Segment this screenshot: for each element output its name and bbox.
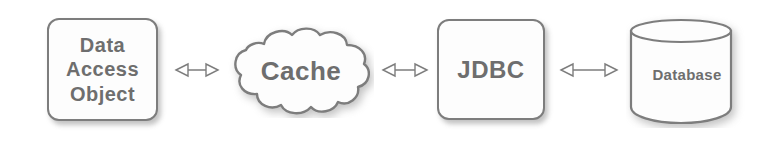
arrowhead-right (206, 64, 218, 76)
connector-dao-cache[interactable] (163, 56, 231, 84)
arrowhead-left (383, 64, 395, 76)
arrowhead-right (605, 64, 617, 76)
node-database-text-wrap: Database (626, 14, 748, 128)
diagram-canvas: Data Access Object Cache (0, 0, 783, 142)
node-database[interactable]: Database (626, 14, 748, 128)
node-cache-text-wrap: Cache (228, 24, 374, 118)
node-cache[interactable]: Cache (228, 24, 374, 118)
node-data-access-object-label: Data Access Object (66, 33, 139, 106)
node-jdbc[interactable]: JDBC (437, 19, 545, 120)
node-database-label: Database (652, 60, 721, 83)
node-jdbc-label: JDBC (457, 55, 524, 84)
connector-jdbc-database[interactable] (548, 56, 630, 84)
arrowhead-right (415, 64, 427, 76)
arrowhead-left (176, 64, 188, 76)
node-cache-label: Cache (261, 56, 342, 87)
connector-cache-jdbc[interactable] (370, 56, 440, 84)
node-data-access-object[interactable]: Data Access Object (47, 18, 158, 121)
arrowhead-left (561, 64, 573, 76)
